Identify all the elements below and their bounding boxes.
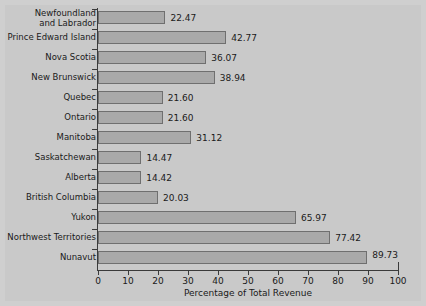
x-tick-label: 90 xyxy=(362,276,373,286)
x-tick-label: 10 xyxy=(122,276,133,286)
bar xyxy=(98,131,191,144)
category-label: Saskatchewan xyxy=(4,153,96,163)
bar-value-label: 21.60 xyxy=(168,113,194,123)
bar xyxy=(98,151,141,164)
bar-row: Ontario21.60 xyxy=(0,108,426,128)
bar-row: New Brunswick38.94 xyxy=(0,68,426,88)
bar-value-label: 21.60 xyxy=(168,93,194,103)
bar xyxy=(98,191,158,204)
bar-value-label: 38.94 xyxy=(220,73,246,83)
x-tick-label: 50 xyxy=(242,276,253,286)
x-tick-mark xyxy=(338,270,339,275)
bar-value-label: 14.42 xyxy=(146,173,172,183)
bar-row: Nova Scotia36.07 xyxy=(0,48,426,68)
x-tick-label: 60 xyxy=(272,276,283,286)
x-tick-mark xyxy=(398,270,399,275)
y-axis-line xyxy=(97,8,98,270)
bar xyxy=(98,171,141,184)
bar-row: British Columbia20.03 xyxy=(0,188,426,208)
x-tick-label: 100 xyxy=(389,276,406,286)
category-label: British Columbia xyxy=(4,193,96,203)
category-label: New Brunswick xyxy=(4,73,96,83)
category-label: Quebec xyxy=(4,93,96,103)
x-tick-mark xyxy=(218,270,219,275)
bar-value-label: 31.12 xyxy=(196,133,222,143)
bar-row: Prince Edward Island42.77 xyxy=(0,28,426,48)
bar-value-label: 77.42 xyxy=(335,233,361,243)
bar xyxy=(98,91,163,104)
x-tick-mark xyxy=(128,270,129,275)
x-tick-mark xyxy=(188,270,189,275)
x-tick-label: 30 xyxy=(182,276,193,286)
bar xyxy=(98,111,163,124)
x-tick-label: 20 xyxy=(152,276,163,286)
category-label: Newfoundland and Labrador xyxy=(4,9,96,28)
bar-row: Quebec21.60 xyxy=(0,88,426,108)
x-tick-mark xyxy=(368,270,369,275)
category-label: Nunavut xyxy=(4,253,96,263)
bar-value-label: 42.77 xyxy=(231,33,257,43)
bar-value-label: 20.03 xyxy=(163,193,189,203)
bar-row: Alberta14.42 xyxy=(0,168,426,188)
bar xyxy=(98,231,330,244)
bar xyxy=(98,11,165,24)
bar-value-label: 14.47 xyxy=(146,153,172,163)
bar-row: Nunavut89.73 xyxy=(0,248,426,268)
x-tick-mark xyxy=(98,270,99,275)
x-tick-label: 80 xyxy=(332,276,343,286)
bar-row: Manitoba31.12 xyxy=(0,128,426,148)
chart-screenshot: Newfoundland and Labrador22.47Prince Edw… xyxy=(0,0,426,306)
bar-value-label: 22.47 xyxy=(170,13,196,23)
bar-row: Northwest Territories77.42 xyxy=(0,228,426,248)
category-label: Manitoba xyxy=(4,133,96,143)
x-tick-label: 0 xyxy=(95,276,101,286)
x-axis-title: Percentage of Total Revenue xyxy=(97,288,399,298)
category-label: Alberta xyxy=(4,173,96,183)
bar-value-label: 89.73 xyxy=(372,250,398,260)
category-label: Northwest Territories xyxy=(4,233,96,243)
category-label: Nova Scotia xyxy=(4,53,96,63)
bar xyxy=(98,31,226,44)
x-tick-mark xyxy=(278,270,279,275)
bar-value-label: 65.97 xyxy=(301,213,327,223)
bar xyxy=(98,71,215,84)
bar-row: Newfoundland and Labrador22.47 xyxy=(0,8,426,28)
x-tick-mark xyxy=(158,270,159,275)
category-label: Prince Edward Island xyxy=(4,33,96,43)
bar xyxy=(98,211,296,224)
x-tick-label: 40 xyxy=(212,276,223,286)
bar-row: Yukon65.97 xyxy=(0,208,426,228)
category-label: Yukon xyxy=(4,213,96,223)
x-tick-label: 70 xyxy=(302,276,313,286)
bar xyxy=(98,251,367,264)
bar-row: Saskatchewan14.47 xyxy=(0,148,426,168)
bar-chart-plot-area: Newfoundland and Labrador22.47Prince Edw… xyxy=(0,0,426,306)
category-label: Ontario xyxy=(4,113,96,123)
bar xyxy=(98,51,206,64)
x-tick-mark xyxy=(308,270,309,275)
bar-value-label: 36.07 xyxy=(211,53,237,63)
x-tick-mark xyxy=(248,270,249,275)
